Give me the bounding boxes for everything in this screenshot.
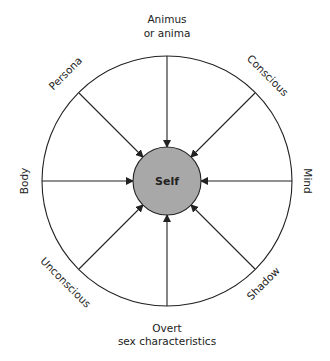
label-body: Body: [18, 168, 30, 195]
label-mind: Mind: [302, 168, 314, 193]
label-animus-line2: or anima: [144, 27, 191, 39]
self-label: Self: [155, 175, 179, 188]
arrow-bottom-left: [79, 205, 143, 269]
label-shadow: Shadow: [244, 264, 282, 302]
label-overt-line2: sex characteristics: [118, 335, 216, 347]
label-animus-line1: Animus: [147, 13, 186, 25]
label-persona: Persona: [46, 54, 84, 92]
label-conscious: Conscious: [245, 52, 291, 98]
self-diagram: Self Animus or anima Conscious Mind Shad…: [0, 0, 330, 361]
label-overt-line1: Overt: [152, 322, 181, 334]
arrow-top-right: [191, 93, 255, 157]
arrow-top-left: [79, 93, 143, 157]
arrow-bottom-right: [191, 205, 255, 269]
